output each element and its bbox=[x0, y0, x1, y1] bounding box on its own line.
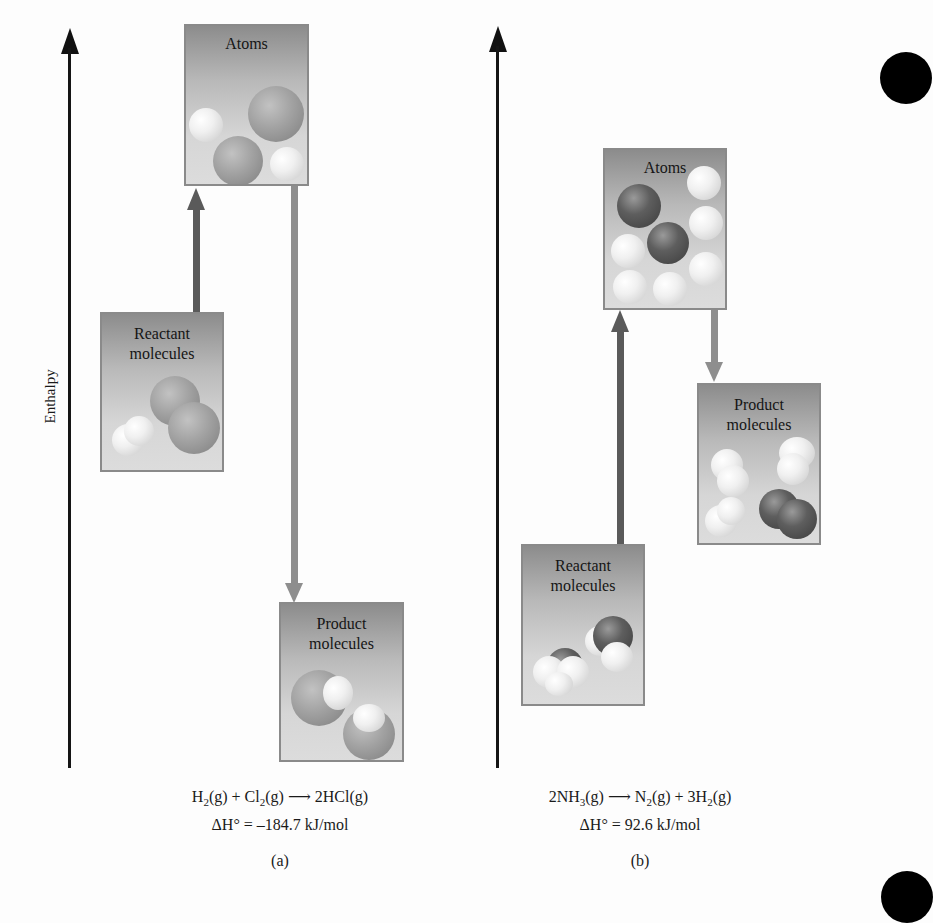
products-title-line1: Product bbox=[281, 614, 402, 634]
arrowhead-up-icon bbox=[187, 188, 205, 210]
reactants-title-line1: Reactant bbox=[523, 556, 643, 576]
reactants-box-a: Reactant molecules bbox=[100, 312, 224, 472]
arrowhead-down-icon bbox=[285, 583, 303, 603]
eq-b-nh3-state: (g) bbox=[585, 788, 604, 805]
chlorine-atom-icon bbox=[248, 86, 304, 142]
page-edge-mark-bottom bbox=[881, 871, 933, 923]
eq-a-h2-state: (g) bbox=[209, 788, 228, 805]
reactants-title-line2: molecules bbox=[523, 576, 643, 596]
page-edge-mark-top bbox=[880, 52, 932, 104]
chlorine-atom-icon bbox=[213, 136, 263, 186]
h2-molecule-icon bbox=[717, 465, 749, 497]
hcl-molecule-icon bbox=[323, 676, 353, 710]
eq-b-n2: N bbox=[635, 788, 647, 805]
bond-breaking-arrow-b bbox=[617, 330, 624, 544]
arrowhead-up-icon bbox=[611, 310, 629, 332]
products-title-line1: Product bbox=[699, 395, 819, 415]
hydrogen-atom-icon bbox=[611, 234, 645, 268]
panel-label-a: (a) bbox=[130, 852, 430, 870]
h2-molecule-icon bbox=[717, 497, 745, 525]
atoms-box-a: Atoms bbox=[184, 24, 309, 186]
hydrogen-atom-icon bbox=[189, 108, 223, 142]
reactants-title-b: Reactant molecules bbox=[523, 556, 643, 596]
nh3-molecule-icon bbox=[545, 672, 573, 696]
eq-b-n2-state: (g) bbox=[652, 788, 671, 805]
reactants-box-b: Reactant molecules bbox=[521, 544, 645, 706]
h2-molecule-icon bbox=[777, 453, 809, 485]
hydrogen-atom-icon bbox=[613, 270, 647, 304]
bond-forming-arrow-a bbox=[291, 186, 298, 586]
y-axis-label: Enthalpy bbox=[42, 354, 59, 424]
hydrogen-atom-icon bbox=[689, 206, 723, 240]
reaction-arrow-icon: ⟶ bbox=[284, 788, 315, 805]
hydrogen-atom-icon bbox=[653, 272, 687, 306]
enthalpy-axis-b bbox=[496, 46, 499, 768]
eq-b-h2: 3H bbox=[688, 788, 708, 805]
reactants-title-line1: Reactant bbox=[102, 324, 222, 344]
products-box-a: Product molecules bbox=[279, 602, 404, 762]
bond-breaking-arrow-a bbox=[193, 208, 200, 312]
nh3-molecule-icon bbox=[601, 642, 633, 672]
products-title-b: Product molecules bbox=[699, 395, 819, 435]
cl2-molecule-icon bbox=[168, 402, 220, 454]
bond-forming-arrow-b bbox=[711, 310, 718, 364]
nitrogen-atom-icon bbox=[617, 184, 661, 228]
products-title-a: Product molecules bbox=[281, 614, 402, 654]
products-title-line2: molecules bbox=[281, 634, 402, 654]
hydrogen-atom-icon bbox=[687, 166, 721, 200]
eq-a-hcl-state: (g) bbox=[349, 788, 368, 805]
eq-a-h2: H bbox=[192, 788, 204, 805]
reactants-title-a: Reactant molecules bbox=[102, 324, 222, 364]
hydrogen-atom-icon bbox=[689, 252, 723, 286]
delta-h-b: ΔH° = 92.6 kJ/mol bbox=[480, 816, 800, 834]
eq-a-plus: + bbox=[228, 788, 245, 805]
h2-molecule-icon bbox=[124, 416, 154, 446]
equation-a: H2(g) + Cl2(g) ⟶ 2HCl(g) bbox=[130, 787, 430, 808]
arrowhead-down-icon bbox=[705, 362, 723, 382]
eq-b-h2-state: (g) bbox=[713, 788, 732, 805]
reactants-title-line2: molecules bbox=[102, 344, 222, 364]
n2-molecule-icon bbox=[777, 499, 817, 539]
hcl-molecule-icon bbox=[353, 704, 385, 732]
eq-a-cl2-state: (g) bbox=[265, 788, 284, 805]
eq-a-cl2: Cl bbox=[245, 788, 260, 805]
panel-label-b: (b) bbox=[480, 852, 800, 870]
eq-b-nh3: 2NH bbox=[549, 788, 580, 805]
hydrogen-atom-icon bbox=[270, 147, 304, 181]
nitrogen-atom-icon bbox=[647, 222, 689, 264]
enthalpy-axis-a bbox=[68, 48, 71, 768]
delta-h-a: ΔH° = –184.7 kJ/mol bbox=[130, 816, 430, 834]
atoms-title-a: Atoms bbox=[186, 34, 307, 54]
reaction-arrow-icon: ⟶ bbox=[604, 788, 635, 805]
atoms-box-b: Atoms bbox=[603, 148, 727, 310]
equation-b: 2NH3(g) ⟶ N2(g) + 3H2(g) bbox=[480, 787, 800, 808]
products-title-line2: molecules bbox=[699, 415, 819, 435]
eq-b-plus: + bbox=[671, 788, 688, 805]
products-box-b: Product molecules bbox=[697, 383, 821, 545]
eq-a-hcl: 2HCl bbox=[315, 788, 350, 805]
